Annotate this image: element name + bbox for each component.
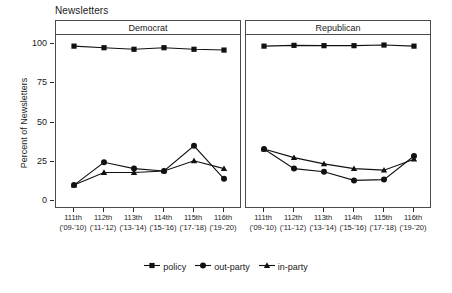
chart-panel-republican: Republican [245, 20, 431, 208]
y-tick-mark [50, 82, 54, 83]
x-tick-mark [293, 208, 294, 212]
x-tick-label: 116th('19-'20) [391, 213, 435, 232]
chart-panel-democrat: Democrat [55, 20, 241, 208]
y-tick-label: 75 [21, 77, 47, 87]
x-tick-congress: 116th [214, 213, 232, 222]
x-tick-mark [353, 208, 354, 212]
x-tick-mark [383, 208, 384, 212]
legend-item-out-party[interactable]: out-party [195, 261, 250, 272]
x-tick-congress: 115th [184, 213, 202, 222]
panel-strip-label: Democrat [55, 20, 241, 35]
x-tick-mark [193, 208, 194, 212]
x-tick-mark [103, 208, 104, 212]
x-tick-mark [133, 208, 134, 212]
x-tick-congress: 111th [64, 213, 82, 222]
panel-strip-label: Republican [245, 20, 431, 35]
x-tick-mark [263, 208, 264, 212]
x-tick-congress: 111th [254, 213, 272, 222]
figure-title: Newsletters [55, 5, 108, 16]
x-tick-mark [413, 208, 414, 212]
x-tick-mark [223, 208, 224, 212]
chart-figure: Newsletters Percent of Newsletters 02550… [0, 0, 452, 293]
legend-item-policy[interactable]: policy [144, 261, 186, 272]
legend-label: out-party [214, 262, 250, 272]
x-tick-mark [323, 208, 324, 212]
triangle-marker [259, 261, 275, 272]
y-tick-mark [50, 200, 54, 201]
circle-marker [195, 261, 211, 272]
x-tick-mark [73, 208, 74, 212]
x-tick-label: 116th('19-'20) [201, 213, 245, 232]
y-tick-label: 50 [21, 117, 47, 127]
plot-area [245, 35, 431, 208]
chart-legend: policy out-party in-party [0, 261, 452, 272]
x-tick-congress: 113th [314, 213, 332, 222]
x-tick-congress: 113th [124, 213, 142, 222]
x-tick-congress: 114th [154, 213, 172, 222]
x-tick-congress: 114th [344, 213, 362, 222]
y-tick-mark [50, 161, 54, 162]
y-tick-label: 0 [21, 195, 47, 205]
x-tick-congress: 115th [374, 213, 392, 222]
y-tick-mark [50, 43, 54, 44]
x-tick-congress: 112th [94, 213, 112, 222]
legend-item-in-party[interactable]: in-party [259, 261, 308, 272]
x-tick-congress: 112th [284, 213, 302, 222]
y-tick-mark [50, 122, 54, 123]
x-tick-years: ('19-'20) [201, 223, 245, 233]
square-marker [144, 261, 160, 272]
x-tick-congress: 116th [404, 213, 422, 222]
legend-label: policy [163, 262, 186, 272]
y-tick-label: 100 [21, 38, 47, 48]
legend-label: in-party [278, 262, 308, 272]
x-tick-mark [163, 208, 164, 212]
x-tick-years: ('19-'20) [391, 223, 435, 233]
plot-area [55, 35, 241, 208]
y-tick-label: 25 [21, 156, 47, 166]
